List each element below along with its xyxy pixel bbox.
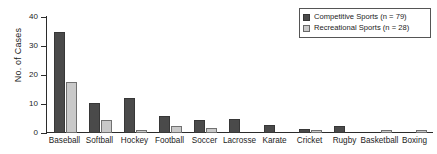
y-tick-label-20: 20	[8, 71, 38, 79]
legend-swatch-recreational	[303, 25, 310, 32]
bar	[66, 82, 77, 133]
bar	[229, 119, 240, 134]
legend-item: Competitive Sports (n = 79)	[303, 12, 427, 22]
bar	[54, 32, 65, 134]
bar-group	[82, 17, 117, 133]
bar	[171, 126, 182, 133]
bar-group	[152, 17, 187, 133]
bar	[334, 126, 345, 133]
legend-label: Competitive Sports (n = 79)	[314, 13, 407, 21]
y-tick-0	[41, 133, 47, 134]
bar	[159, 116, 170, 133]
bar	[264, 125, 275, 133]
bar-group	[257, 17, 292, 133]
bar	[381, 130, 392, 133]
legend-item: Recreational Sports (n = 28)	[303, 23, 427, 33]
y-tick-label-30: 30	[8, 42, 38, 50]
y-tick-label-0: 0	[8, 129, 38, 137]
bar-group	[47, 17, 82, 133]
bar	[299, 129, 310, 133]
bar	[89, 103, 100, 133]
x-axis-label-boxing: Boxing	[389, 136, 437, 146]
bar	[101, 120, 112, 133]
bar-group	[222, 17, 257, 133]
y-axis-title: No. of Cases	[13, 15, 23, 95]
legend-label: Recreational Sports (n = 28)	[314, 24, 409, 32]
bar	[416, 130, 427, 133]
bar	[311, 130, 322, 133]
bar	[124, 98, 135, 133]
bar-group	[187, 17, 222, 133]
bar	[206, 128, 217, 133]
bar	[194, 120, 205, 133]
bar	[136, 130, 147, 133]
y-tick-label-40: 40	[8, 13, 38, 21]
bar-chart: No. of Cases 010203040 BaseballSoftballH…	[0, 0, 437, 154]
y-tick-label-10: 10	[8, 100, 38, 108]
legend-swatch-competitive	[303, 14, 310, 21]
chart-legend: Competitive Sports (n = 79)Recreational …	[299, 8, 431, 38]
bar-group	[117, 17, 152, 133]
